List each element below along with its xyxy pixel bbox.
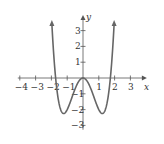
curve-arrow-icon [112,20,117,26]
function-graph: −4−3−2−1123−3−2−1123 x y [0,0,164,144]
graph-canvas: −4−3−2−1123−3−2−1123 x y [0,0,164,144]
x-axis-arrow-icon [142,76,147,81]
y-tick-label: −2 [71,105,84,115]
y-axis-label: y [85,12,92,22]
y-axis-arrow-icon [81,15,86,20]
x-tick-label: −4 [15,82,29,92]
y-tick-label: 3 [75,26,81,36]
x-tick-label: 3 [128,82,134,92]
x-tick-label: −3 [31,82,45,92]
y-tick-label: −3 [71,120,85,130]
x-axis-label: x [144,82,149,92]
x-tick-label: 1 [96,82,102,92]
y-tick-label: 1 [75,57,81,67]
curve-arrow-icon [49,20,54,26]
x-tick-label: 2 [112,82,118,92]
y-tick-label: 2 [75,41,81,51]
